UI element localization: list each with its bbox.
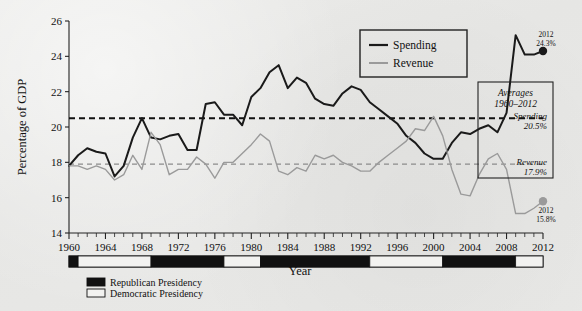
presidency-segment-democratic [224,256,260,267]
averages-spending-label: Spending [514,111,548,121]
endpoint-dot-revenue-2012 [539,197,547,205]
x-axis-tick-label: 2008 [496,241,519,253]
x-axis-tick-label: 1976 [204,241,227,253]
endpoint-dot-spending-2012 [539,47,547,55]
y-axis-title: Percentage of GDP [15,79,29,176]
chart-svg: 1416182022242619601964196819721976198019… [0,0,582,311]
averages-title-line2: 1960–2012 [494,99,537,109]
x-axis-tick-label: 1964 [94,241,117,253]
legend-label-revenue: Revenue [393,57,433,69]
y-axis-tick-label: 24 [51,50,63,62]
x-axis-tick-label: 1972 [167,241,189,253]
x-axis-tick-label: 1992 [350,241,372,253]
presidency-segment-democratic [78,256,151,267]
presidency-segment-democratic [370,256,443,267]
party-label-republican: Republican Presidency [110,277,202,288]
x-axis-tick-label: 1968 [131,241,154,253]
y-axis-tick-label: 20 [51,121,63,133]
endpoint-year-revenue-2012: 2012 [539,206,554,215]
presidency-segment-republican [260,256,369,267]
x-axis-tick-label: 1980 [240,241,263,253]
y-axis-tick-label: 26 [51,15,63,27]
x-axis-tick-label: 1988 [313,241,336,253]
party-label-democratic: Democratic Presidency [110,288,203,299]
legend-label-spending: Spending [393,39,437,52]
x-axis-tick-label: 1984 [277,241,300,253]
endpoint-value-spending-2012: 24.3% [536,39,555,48]
presidency-segment-republican [151,256,224,267]
presidency-segment-republican [443,256,516,267]
y-axis-tick-label: 16 [51,192,63,204]
presidency-segment-republican [69,256,78,267]
party-swatch-republican [87,278,105,286]
averages-title-line1: Averages [497,88,533,98]
x-axis-tick-label: 1960 [58,241,81,253]
x-axis-tick-label: 2004 [459,241,482,253]
y-axis-tick-label: 14 [51,227,63,239]
averages-revenue-label: Revenue [516,157,547,167]
y-axis-tick-label: 18 [51,156,63,168]
presidency-segment-democratic [516,256,543,267]
series-line-revenue [69,116,543,213]
y-axis-tick-label: 22 [51,86,62,98]
x-axis-tick-label: 1996 [386,241,409,253]
averages-spending-value: 20.5% [524,121,547,131]
endpoint-value-revenue-2012: 15.8% [536,215,555,224]
x-axis-tick-label: 2000 [423,241,446,253]
series-line-spending [69,35,543,176]
legend-box [360,30,467,77]
x-axis-tick-label: 2012 [532,241,554,253]
gdp-spending-revenue-chart: 1416182022242619601964196819721976198019… [0,0,582,311]
averages-revenue-value: 17.9% [524,167,547,177]
endpoint-year-spending-2012: 2012 [539,30,554,39]
party-swatch-democratic [87,289,105,297]
